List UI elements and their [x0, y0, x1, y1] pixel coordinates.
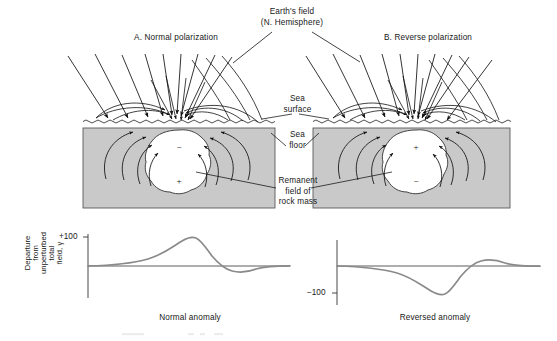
chart-right-anomaly-curve — [337, 260, 540, 295]
chart-reversed-anomaly — [332, 240, 540, 305]
panel-a-label: A. Normal polarization — [96, 33, 256, 44]
chart-left-anomaly-curve — [88, 237, 290, 272]
panel-b-bottom-sign: − — [409, 176, 423, 186]
chart-left-title: Normal anomaly — [130, 313, 250, 324]
panel-a-sea-surface — [83, 120, 275, 123]
earths-field-title: Earth's field (N. Hemisphere) — [232, 7, 352, 28]
caption-sliver — [122, 333, 223, 335]
diagram-canvas — [0, 0, 557, 341]
ylabel-line-5: field, γ — [54, 242, 63, 265]
chart-normal-anomaly — [83, 234, 290, 298]
panel-a-top-sign: − — [172, 142, 186, 152]
panel-b-label: B. Reverse polarization — [348, 33, 508, 44]
chart-left-y-axis-label-5: field, γ — [45, 213, 74, 301]
chart-right-title: Reversed anomaly — [375, 313, 495, 324]
remanent-field-label: Remanent field of rock mass — [258, 176, 338, 208]
panel-a-bottom-sign: + — [172, 176, 186, 186]
figure-root: Earth's field (N. Hemisphere) A. Normal … — [0, 0, 557, 341]
chart-left-ytick-label: +100 — [59, 232, 77, 241]
sea-surface-label: Sea surface — [275, 94, 320, 115]
panel-b-sea-surface — [313, 120, 511, 123]
panel-a-earth-field-lines — [68, 54, 232, 119]
chart-right-ytick-label: −100 — [307, 288, 325, 297]
panel-b-top-sign: + — [409, 142, 423, 152]
sea-floor-label: Sea floor — [275, 130, 320, 151]
panel-b-earth-field-lines — [306, 54, 492, 120]
